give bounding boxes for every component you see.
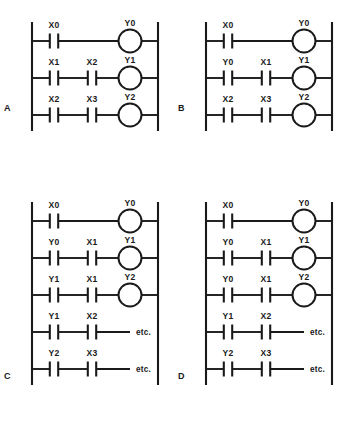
contact-x3: X3: [87, 94, 98, 123]
rung: Y1X1Y2: [32, 272, 158, 307]
contact-x1: X1: [49, 57, 60, 86]
rung: Y2X3etc.: [32, 348, 151, 377]
contact-label: X1: [261, 57, 272, 67]
coil-label: Y0: [125, 198, 136, 208]
rung: X0Y0: [32, 198, 158, 233]
output-coil-y0: [293, 30, 316, 53]
contact-x3: X3: [261, 94, 272, 123]
contact-label: Y0: [49, 237, 60, 247]
contact-x2: X2: [87, 57, 98, 86]
contact-x1: X1: [261, 237, 272, 266]
ladder-panel-d-drawing: X0Y0Y0X1Y1Y0X1Y2Y1X2etc.Y2X3etc.: [192, 190, 336, 393]
contact-y0: Y0: [223, 237, 234, 266]
etc-label: etc.: [136, 365, 151, 374]
contact-x1: X1: [87, 274, 98, 303]
contact-label: X3: [261, 348, 272, 358]
coil-label: Y0: [299, 18, 310, 28]
etc-label: etc.: [310, 328, 325, 337]
contact-y1: Y1: [223, 311, 234, 340]
contact-y0: Y0: [223, 57, 234, 86]
contact-label: Y0: [223, 237, 234, 247]
contact-x2: X2: [49, 94, 60, 123]
contact-label: X0: [49, 20, 60, 30]
ladder-panel-a-drawing: X0Y0X1X2Y1X2X3Y2: [18, 10, 162, 139]
contact-x0: X0: [223, 20, 234, 49]
output-coil-y0: [119, 30, 142, 53]
coil-label: Y1: [125, 55, 136, 65]
panel-letter-b: B: [178, 103, 185, 113]
ladder-diagram-figure: X0Y0X1X2Y1X2X3Y2AX0Y0Y0X1Y1X2X3Y2BX0Y0Y0…: [0, 0, 348, 422]
contact-label: X0: [223, 20, 234, 30]
contact-label: Y0: [223, 57, 234, 67]
contact-y0: Y0: [223, 274, 234, 303]
coil-label: Y1: [299, 235, 310, 245]
rung: X2X3Y2: [206, 92, 332, 127]
contact-x2: X2: [261, 311, 272, 340]
coil-label: Y0: [125, 18, 136, 28]
contact-x2: X2: [87, 311, 98, 340]
output-coil-y1: [293, 247, 316, 270]
contact-y2: Y2: [49, 348, 60, 377]
coil-label: Y2: [125, 92, 136, 102]
contact-x3: X3: [87, 348, 98, 377]
etc-label: etc.: [310, 365, 325, 374]
coil-label: Y1: [125, 235, 136, 245]
contact-x0: X0: [49, 20, 60, 49]
output-coil-y2: [119, 284, 142, 307]
contact-x1: X1: [261, 274, 272, 303]
coil-label: Y2: [125, 272, 136, 282]
rung: X0Y0: [206, 198, 332, 233]
output-coil-y0: [119, 210, 142, 233]
contact-label: X3: [87, 94, 98, 104]
contact-x0: X0: [49, 200, 60, 229]
rung: Y0X1Y2: [206, 272, 332, 307]
output-coil-y1: [119, 247, 142, 270]
ladder-panel-c-drawing: X0Y0Y0X1Y1Y1X1Y2Y1X2etc.Y2X3etc.: [18, 190, 162, 393]
ladder-panel-a: X0Y0X1X2Y1X2X3Y2A: [18, 10, 162, 139]
contact-label: X2: [49, 94, 60, 104]
coil-label: Y1: [299, 55, 310, 65]
rung: Y1X2etc.: [32, 311, 151, 340]
contact-label: X3: [261, 94, 272, 104]
rung: X1X2Y1: [32, 55, 158, 90]
ladder-panel-b: X0Y0Y0X1Y1X2X3Y2B: [192, 10, 336, 139]
contact-label: Y0: [223, 274, 234, 284]
contact-y1: Y1: [49, 311, 60, 340]
contact-x1: X1: [261, 57, 272, 86]
output-coil-y2: [293, 284, 316, 307]
ladder-panel-d: X0Y0Y0X1Y1Y0X1Y2Y1X2etc.Y2X3etc.D: [192, 190, 336, 393]
ladder-panel-c: X0Y0Y0X1Y1Y1X1Y2Y1X2etc.Y2X3etc.C: [18, 190, 162, 393]
output-coil-y1: [293, 67, 316, 90]
contact-label: X1: [49, 57, 60, 67]
contact-label: X0: [49, 200, 60, 210]
contact-label: X2: [223, 94, 234, 104]
contact-x2: X2: [223, 94, 234, 123]
contact-label: Y1: [49, 274, 60, 284]
contact-x3: X3: [261, 348, 272, 377]
coil-label: Y2: [299, 92, 310, 102]
rung: Y0X1Y1: [206, 55, 332, 90]
contact-label: X2: [87, 57, 98, 67]
rung: X0Y0: [206, 18, 332, 53]
rung: Y1X2etc.: [206, 311, 325, 340]
contact-label: X2: [261, 311, 272, 321]
contact-label: Y2: [223, 348, 234, 358]
coil-label: Y0: [299, 198, 310, 208]
contact-x1: X1: [87, 237, 98, 266]
etc-label: etc.: [136, 328, 151, 337]
output-coil-y1: [119, 67, 142, 90]
contact-x0: X0: [223, 200, 234, 229]
output-coil-y2: [293, 104, 316, 127]
rung: Y2X3etc.: [206, 348, 325, 377]
contact-label: X2: [87, 311, 98, 321]
rung: Y0X1Y1: [32, 235, 158, 270]
contact-label: X1: [261, 274, 272, 284]
contact-label: X1: [261, 237, 272, 247]
contact-label: X1: [87, 274, 98, 284]
contact-y1: Y1: [49, 274, 60, 303]
rung: X2X3Y2: [32, 92, 158, 127]
contact-label: X3: [87, 348, 98, 358]
rung: X0Y0: [32, 18, 158, 53]
panel-letter-c: C: [4, 371, 11, 381]
ladder-panel-b-drawing: X0Y0Y0X1Y1X2X3Y2: [192, 10, 336, 139]
